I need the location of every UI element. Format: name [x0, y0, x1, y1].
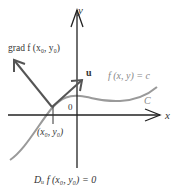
origin-label: 0: [68, 103, 73, 112]
point-label: (x₀, y₀): [37, 128, 63, 138]
curve-name-label: C: [144, 96, 151, 106]
gradient-label: grad f (x₀, y₀): [8, 44, 60, 54]
y-axis-label: y: [78, 5, 83, 16]
x-axis-label: x: [165, 110, 170, 121]
unit-vector-label: u: [86, 68, 92, 78]
level-curve-c: [10, 87, 157, 160]
directional-derivative-caption: Dᵤ f (x₀, y₀) = 0: [34, 175, 96, 185]
gradient-vector: [14, 60, 52, 107]
level-curve-label: f (x, y) = c: [108, 71, 150, 81]
diagram-canvas: [0, 0, 180, 196]
